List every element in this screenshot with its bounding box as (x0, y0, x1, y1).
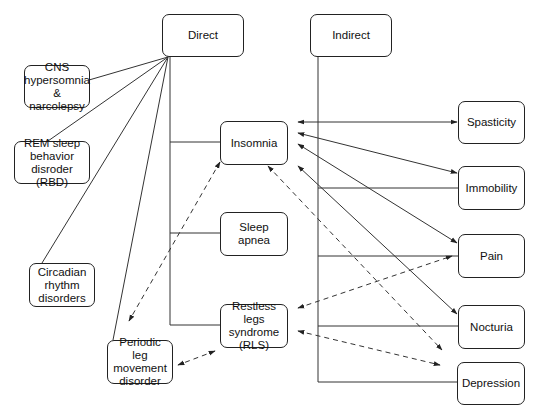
node-indirect: Indirect (310, 14, 392, 57)
node-rem-label: REM sleep behavior disroder (RBD) (17, 137, 87, 189)
edge-rls-plmd (178, 351, 215, 365)
node-nocturia-label: Nocturia (470, 321, 513, 334)
node-depression: Depression (457, 362, 525, 405)
node-direct: Direct (162, 14, 244, 57)
node-sleep-apnea: Sleep apnea (220, 212, 288, 256)
node-pain: Pain (458, 234, 525, 278)
node-insomnia: Insomnia (220, 121, 288, 165)
node-insomnia-label: Insomnia (231, 137, 278, 150)
node-periodic-leg-movement: Periodic leg movement disorder (107, 340, 173, 384)
node-plmd-label: Periodic leg movement disorder (110, 336, 170, 388)
node-immobility-label: Immobility (466, 182, 518, 195)
node-cns-hypersomnia: CNS hypersomnia & narcolepsy (24, 65, 90, 108)
node-rls-label: Restless legs syndrome (RLS) (223, 300, 285, 352)
edge-rls-depression (298, 331, 440, 365)
node-indirect-label: Indirect (332, 29, 370, 42)
node-spasticity-label: Spasticity (467, 116, 516, 129)
edge-insomnia-pain (298, 144, 457, 243)
node-rem-sleep-behavior: REM sleep behavior disroder (RBD) (14, 141, 90, 184)
edge-insomnia-immobility (298, 133, 457, 173)
edge-insomnia-depression (268, 166, 442, 350)
node-cns-label: CNS hypersomnia & narcolepsy (24, 61, 90, 113)
edge-rls-pain (298, 256, 452, 308)
edge-direct-plmd (113, 57, 168, 340)
node-immobility: Immobility (458, 166, 525, 210)
node-direct-label: Direct (188, 29, 218, 42)
node-pain-label: Pain (480, 250, 503, 263)
node-circadian-label: Circadian rhythm disorders (38, 266, 87, 305)
node-nocturia: Nocturia (458, 305, 525, 349)
node-circadian-rhythm: Circadian rhythm disorders (29, 263, 95, 307)
node-spasticity: Spasticity (458, 101, 525, 144)
node-depression-label: Depression (462, 377, 520, 390)
node-restless-legs: Restless legs syndrome (RLS) (220, 304, 288, 348)
node-sleep-apnea-label: Sleep apnea (223, 221, 285, 247)
